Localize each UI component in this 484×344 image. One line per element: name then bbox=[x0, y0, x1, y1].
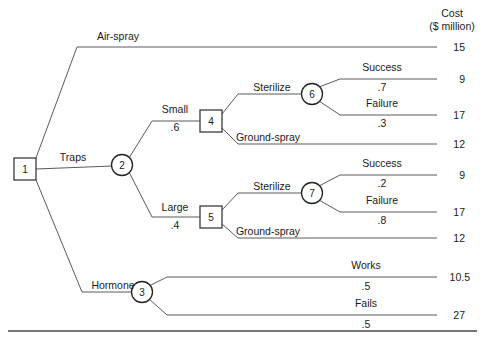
branch-prob-fails: .5 bbox=[362, 318, 371, 330]
branch-prob-works: .5 bbox=[362, 280, 371, 292]
branch-label-fails: Fails bbox=[355, 297, 377, 309]
branch-prob-small: .6 bbox=[171, 121, 180, 133]
node-3[interactable]: 3 bbox=[132, 282, 153, 303]
branch-label-sterilize-large: Sterilize bbox=[253, 180, 291, 192]
branch-label-small: Small bbox=[162, 103, 188, 115]
node-1[interactable]: 1 bbox=[14, 158, 36, 180]
branch-line-sterilize-small bbox=[222, 94, 302, 114]
branch-label-traps: Traps bbox=[60, 151, 86, 163]
payoff-terminal-27: 27 bbox=[453, 309, 465, 321]
branch-labels: Air-spray Traps Hormone Small .6 Large .… bbox=[60, 30, 402, 330]
payoff-terminal-9a: 9 bbox=[459, 73, 465, 85]
node-4-label: 4 bbox=[208, 116, 214, 127]
payoff-terminal-15: 15 bbox=[453, 41, 465, 53]
branch-prob-success-7: .2 bbox=[378, 177, 387, 189]
branch-label-ground-spray-small: Ground-spray bbox=[236, 131, 301, 143]
node-5[interactable]: 5 bbox=[200, 206, 222, 228]
payoff-terminal-10-5: 10.5 bbox=[450, 271, 471, 283]
branch-line-works bbox=[149, 277, 437, 286]
node-4[interactable]: 4 bbox=[200, 110, 222, 132]
branch-line-sterilize-large bbox=[222, 193, 302, 210]
payoff-header-line2: ($ million) bbox=[429, 20, 475, 32]
branch-label-hormone: Hormone bbox=[91, 279, 134, 291]
node-7-label: 7 bbox=[309, 188, 315, 199]
branch-label-failure-7: Failure bbox=[366, 194, 398, 206]
payoff-terminal-12a: 12 bbox=[453, 138, 465, 150]
node-6-label: 6 bbox=[309, 89, 315, 100]
branch-label-success-7: Success bbox=[362, 157, 402, 169]
node-5-label: 5 bbox=[208, 212, 214, 223]
branch-label-works: Works bbox=[351, 259, 381, 271]
node-1-label: 1 bbox=[22, 164, 28, 175]
branch-label-failure-6: Failure bbox=[366, 97, 398, 109]
payoff-terminal-17b: 17 bbox=[453, 206, 465, 218]
payoff-terminal-12b: 12 bbox=[453, 232, 465, 244]
payoff-column: Cost ($ million) 15 9 17 12 9 17 12 10.5… bbox=[429, 7, 475, 321]
node-7[interactable]: 7 bbox=[302, 183, 323, 204]
branch-prob-success-6: .7 bbox=[378, 81, 387, 93]
node-2-label: 2 bbox=[119, 160, 125, 171]
node-2[interactable]: 2 bbox=[112, 155, 133, 176]
branch-label-sterilize-small: Sterilize bbox=[253, 81, 291, 93]
node-6[interactable]: 6 bbox=[302, 84, 323, 105]
branch-prob-failure-6: .3 bbox=[378, 117, 387, 129]
decision-tree-figure: 1 2 3 4 5 6 7 Air-spray Traps bbox=[0, 0, 484, 344]
branch-prob-large: .4 bbox=[171, 219, 180, 231]
branch-label-ground-spray-large: Ground-spray bbox=[236, 225, 301, 237]
branch-line-fails bbox=[149, 299, 437, 315]
branch-line-small bbox=[129, 121, 200, 158]
branch-label-success-6: Success bbox=[362, 61, 402, 73]
payoff-terminal-17a: 17 bbox=[453, 109, 465, 121]
branch-line-traps bbox=[36, 166, 112, 169]
branch-prob-failure-7: .8 bbox=[378, 214, 387, 226]
payoff-terminal-9b: 9 bbox=[459, 169, 465, 181]
node-3-label: 3 bbox=[139, 287, 145, 298]
branch-label-large: Large bbox=[162, 201, 189, 213]
branch-label-air-spray: Air-spray bbox=[97, 30, 140, 42]
branch-line-hormone bbox=[36, 180, 132, 292]
payoff-header-line1: Cost bbox=[441, 7, 463, 19]
